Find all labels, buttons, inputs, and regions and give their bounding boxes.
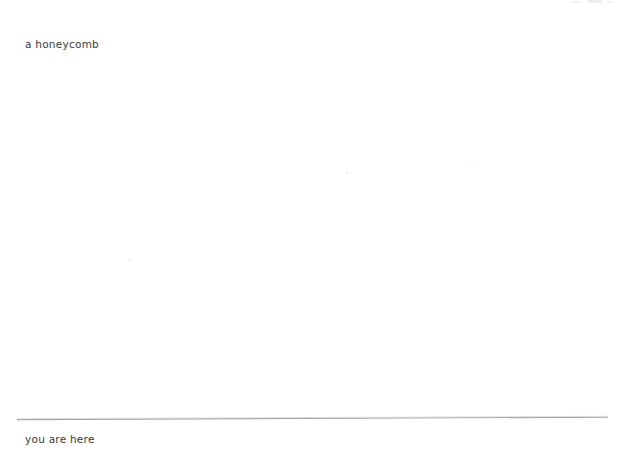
footer-caption: you are here xyxy=(25,433,95,446)
scan-speck-icon xyxy=(346,172,348,174)
horizontal-rule-svg xyxy=(17,411,608,425)
scan-speck-icon xyxy=(129,259,131,261)
horizontal-rule xyxy=(17,411,608,425)
horizontal-rule-line xyxy=(17,417,608,419)
horizontal-rule-highlight xyxy=(17,416,608,418)
scanned-page: a honeycomb you are here xyxy=(0,0,620,455)
scan-speck-icon xyxy=(471,162,473,164)
scan-edge-artifact xyxy=(572,1,581,3)
scan-edge-artifact xyxy=(607,1,613,3)
scan-edge-artifact xyxy=(588,0,602,3)
page-title-caption: a honeycomb xyxy=(25,38,99,51)
